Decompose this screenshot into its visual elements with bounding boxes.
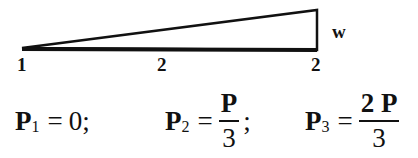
eq-fraction: P 3 [219, 90, 240, 152]
load-intensity-label: w [332, 22, 346, 41]
fraction-numerator: P [219, 90, 240, 122]
eq-subscript: 2 [182, 118, 190, 136]
node-label-2: 2 [157, 55, 167, 74]
eq-subscript: 3 [322, 118, 330, 136]
eq-suffix: ; [243, 106, 251, 137]
beam-line [22, 49, 317, 50]
eq-operator: = [338, 106, 353, 137]
eq-operator: = [198, 106, 213, 137]
eq-operator: = [48, 106, 63, 137]
eq-subscript: 1 [32, 118, 40, 136]
eq-fraction: 2 P 3 [359, 90, 400, 152]
fraction-denominator: 3 [222, 122, 236, 152]
eq-lhs: P [165, 106, 182, 137]
fraction-denominator: 3 [372, 122, 386, 152]
node-label-1: 1 [17, 55, 27, 74]
eq-rhs: 0 [69, 106, 83, 137]
load-triangle [22, 10, 317, 50]
node-label-3: 2 [311, 55, 321, 74]
eq-suffix: ; [82, 106, 90, 137]
fraction-numerator: 2 P [359, 90, 400, 122]
equation-p2: P2 = P 3 ; [165, 86, 251, 156]
equation-p1: P1 = 0; [15, 86, 90, 156]
eq-lhs: P [15, 106, 32, 137]
triangular-load-diagram [0, 0, 418, 80]
eq-lhs: P [305, 106, 322, 137]
equation-p3: P3 = 2 P 3 [305, 86, 399, 156]
